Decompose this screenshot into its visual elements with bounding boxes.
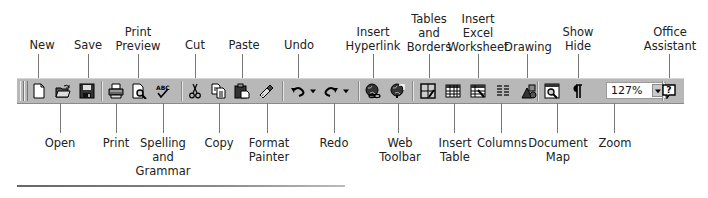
leader-columns: [501, 103, 502, 133]
redo-dropdown-arrow[interactable]: [342, 82, 350, 100]
leader-redo: [334, 103, 335, 133]
label-drawing: Drawing: [504, 40, 552, 54]
format-painter-button[interactable]: [257, 82, 275, 100]
globe-arrow-icon: [389, 83, 405, 99]
pilcrow-icon: [569, 83, 585, 99]
scissors-icon: [187, 83, 203, 99]
label-insert-hyperlink: Insert Hyperlink: [346, 25, 401, 53]
show-hide-button[interactable]: [568, 82, 586, 100]
label-paste: Paste: [228, 38, 259, 52]
separator: [358, 81, 360, 101]
spelling-check-icon: ABC: [155, 83, 171, 99]
leader-copy: [219, 103, 220, 133]
label-redo: Redo: [320, 136, 349, 150]
undo-dropdown-arrow[interactable]: [309, 82, 317, 100]
columns-icon: [495, 83, 511, 99]
leader-print: [116, 103, 117, 133]
new-button[interactable]: [30, 82, 48, 100]
label-document-map: Document Map: [528, 136, 588, 164]
document-map-icon: [544, 83, 560, 99]
separator: [537, 81, 539, 101]
divider-rule: [17, 185, 345, 187]
save-button[interactable]: [78, 82, 96, 100]
label-new: New: [29, 38, 54, 52]
leader-format-painter: [267, 103, 268, 133]
insert-table-button[interactable]: [444, 82, 462, 100]
undo-arrow-icon: [290, 83, 306, 99]
label-print: Print: [103, 136, 129, 150]
leader-web-toolbar: [398, 103, 399, 133]
leader-open: [60, 103, 61, 133]
open-button[interactable]: [54, 82, 72, 100]
separator: [412, 81, 414, 101]
print-preview-icon: [131, 83, 147, 99]
label-spelling-grammar: Spelling and Grammar: [136, 136, 191, 178]
print-preview-button[interactable]: [130, 82, 148, 100]
print-button[interactable]: [107, 82, 125, 100]
svg-text:?: ?: [666, 85, 671, 95]
leader-spelling: [163, 103, 164, 133]
label-cut: Cut: [185, 38, 205, 52]
label-office-assistant: Office Assistant: [644, 25, 696, 53]
leader-zoom: [614, 103, 615, 133]
table-pencil-icon: [420, 83, 436, 99]
chevron-down-icon: [343, 88, 349, 94]
zoom-combobox[interactable]: 127%: [606, 82, 666, 99]
document-map-button[interactable]: [543, 82, 561, 100]
help-balloon-icon: ?: [661, 83, 677, 99]
insert-hyperlink-button[interactable]: [364, 82, 382, 100]
label-insert-excel: Insert Excel Worksheet: [447, 12, 508, 54]
spelling-grammar-button[interactable]: ABC: [154, 82, 172, 100]
leader-document-map: [557, 103, 558, 133]
clipboard-paste-icon: [234, 83, 250, 99]
paintbrush-icon: [258, 83, 274, 99]
leader-insert-table: [454, 103, 455, 133]
undo-button[interactable]: [289, 82, 307, 100]
label-print-preview: Print Preview: [116, 25, 161, 53]
separator: [282, 81, 284, 101]
office-assistant-button[interactable]: ?: [660, 82, 678, 100]
standard-toolbar: ABC: [17, 78, 684, 104]
open-folder-icon: [55, 83, 71, 99]
web-toolbar-button[interactable]: [388, 82, 406, 100]
new-document-icon: [31, 83, 47, 99]
label-copy: Copy: [204, 136, 233, 150]
floppy-disk-icon: [79, 83, 95, 99]
copy-icon: [211, 83, 227, 99]
label-columns: Columns: [477, 136, 527, 150]
label-undo: Undo: [284, 38, 314, 52]
label-web-toolbar: Web Toolbar: [379, 136, 420, 164]
worksheet-icon: [470, 83, 486, 99]
separator: [101, 81, 103, 101]
zoom-value[interactable]: 127%: [611, 84, 642, 97]
paste-button[interactable]: [233, 82, 251, 100]
separator: [181, 81, 183, 101]
label-format-painter: Format Painter: [249, 136, 290, 164]
printer-icon: [108, 83, 124, 99]
globe-link-icon: [365, 83, 381, 99]
label-insert-table: Insert Table: [439, 136, 472, 164]
drawing-shapes-icon: [521, 83, 537, 99]
label-open: Open: [45, 136, 76, 150]
cut-button[interactable]: [186, 82, 204, 100]
label-tables-borders: Tables and Borders: [407, 12, 452, 54]
copy-button[interactable]: [210, 82, 228, 100]
redo-button[interactable]: [322, 82, 340, 100]
insert-excel-worksheet-button[interactable]: [469, 82, 487, 100]
label-zoom: Zoom: [598, 136, 631, 150]
toolbar-grip-2[interactable]: [24, 81, 28, 101]
tables-borders-button[interactable]: [419, 82, 437, 100]
drawing-button[interactable]: [520, 82, 538, 100]
columns-button[interactable]: [494, 82, 512, 100]
label-save: Save: [74, 38, 102, 52]
redo-arrow-icon: [323, 83, 339, 99]
chevron-down-icon: [310, 88, 316, 94]
table-grid-icon: [445, 83, 461, 99]
label-show-hide: Show Hide: [562, 25, 593, 53]
